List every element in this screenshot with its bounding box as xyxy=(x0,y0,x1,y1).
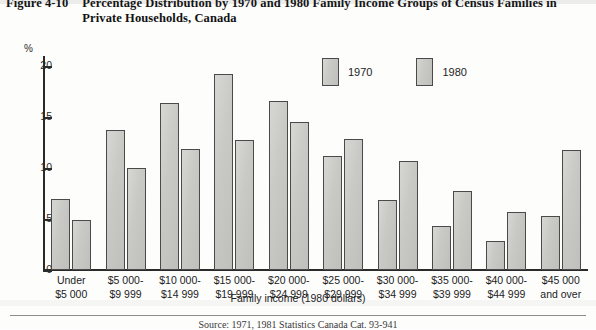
category-label-line: $40 000- xyxy=(479,274,533,288)
bar-1980[interactable] xyxy=(562,150,581,270)
bar-group xyxy=(207,36,261,270)
bar-1970[interactable] xyxy=(160,103,179,270)
bar-1980[interactable] xyxy=(181,149,200,270)
category-label-line: $20 000- xyxy=(262,274,316,288)
figure-title-block: Figure 4-10 Percentage Distribution by 1… xyxy=(6,0,590,25)
legend-item-1980: 1980 xyxy=(416,58,466,86)
y-axis-unit-label: % xyxy=(24,43,33,54)
bar-1970[interactable] xyxy=(323,156,342,270)
bar-group xyxy=(534,36,588,270)
category-label-line: $35 000- xyxy=(425,274,479,288)
bar-1980[interactable] xyxy=(507,212,526,270)
bar-1970[interactable] xyxy=(432,226,451,270)
figure-number: Figure 4-10 xyxy=(6,0,68,11)
category-label-line: $5 000- xyxy=(98,274,152,288)
bar-1970[interactable] xyxy=(106,130,125,270)
category-label-line: $25 000- xyxy=(316,274,370,288)
source-note: Source: 1971, 1981 Statistics Canada Cat… xyxy=(0,319,596,330)
bar-group xyxy=(479,36,533,270)
x-axis-title: Family income (1980 dollars) xyxy=(0,292,596,304)
bar-1980[interactable] xyxy=(127,168,146,270)
bar-1980[interactable] xyxy=(344,139,363,270)
bar-1970[interactable] xyxy=(541,216,560,270)
category-label-line: $10 000- xyxy=(153,274,207,288)
bar-1970[interactable] xyxy=(486,241,505,270)
category-label-line: $45 000 xyxy=(534,274,588,288)
page-title: Percentage Distribution by 1970 and 1980… xyxy=(82,0,590,25)
bars-plot-region xyxy=(44,36,588,270)
legend-label: 1980 xyxy=(442,66,466,78)
legend-label: 1970 xyxy=(348,66,372,78)
bar-1980[interactable] xyxy=(235,140,254,270)
bar-1970[interactable] xyxy=(378,200,397,270)
legend-item-1970: 1970 xyxy=(322,58,372,86)
bar-1980[interactable] xyxy=(453,191,472,270)
legend-swatch-icon xyxy=(416,58,433,86)
bar-1970[interactable] xyxy=(51,199,70,270)
bar-group xyxy=(153,36,207,270)
legend-swatch-icon xyxy=(322,58,339,86)
chart-canvas: % 05101520 1970 1980 Under$5 000$5 000-$… xyxy=(0,36,596,311)
bar-group xyxy=(262,36,316,270)
bar-1970[interactable] xyxy=(214,74,233,270)
bar-group xyxy=(44,36,98,270)
bar-1980[interactable] xyxy=(72,220,91,270)
category-label-line: $15 000- xyxy=(207,274,261,288)
category-label-line: Under xyxy=(44,274,98,288)
horizontal-rule xyxy=(10,315,586,316)
category-label-line: $30 000- xyxy=(370,274,424,288)
bar-1970[interactable] xyxy=(269,101,288,270)
bar-1980[interactable] xyxy=(399,161,418,270)
chart-legend: 1970 1980 xyxy=(322,58,467,86)
bar-group xyxy=(98,36,152,270)
bar-1980[interactable] xyxy=(290,122,309,270)
